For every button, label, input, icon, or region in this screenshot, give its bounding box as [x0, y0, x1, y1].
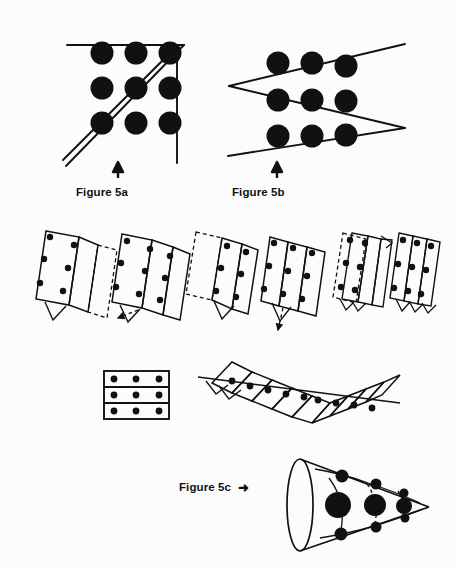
caption-figure-5b: Figure 5b: [232, 186, 285, 198]
caption-figure-5c-text: Figure 5c: [179, 481, 231, 493]
fold-stage-2: [112, 234, 190, 322]
fig5a-up-arrow-icon: [113, 162, 123, 178]
fig5b-dot-r2c2: [301, 89, 324, 112]
fig5b-dot-r3c1: [267, 125, 290, 148]
arrow-right-icon: ➜: [238, 481, 249, 494]
fold-stage-5: [333, 233, 392, 311]
fig5a-dot-r2c3: [159, 77, 182, 100]
fig5b-up-arrow-icon: [272, 162, 282, 178]
fold-stage-4: [261, 237, 325, 330]
caption-figure-5a-text: Figure 5a: [76, 186, 128, 198]
fold-sequence-diagram: [36, 231, 440, 330]
fig5a-line-edge: [66, 45, 67, 166]
fig5a-dot-r2c1: [91, 77, 114, 100]
fig5a-dot-r1c3: [159, 42, 182, 65]
fig5a-dot-r3c3: [159, 112, 182, 135]
fig5b-dot-r2c1: [267, 89, 290, 112]
fig5a-dot-r2c2: [125, 77, 148, 100]
fig5a-dot-r1c2: [125, 42, 148, 65]
flat-sheet-diagram: [104, 371, 169, 419]
fig5b-dot-r3c2: [301, 125, 324, 148]
fig5b-dot-r3c3: [335, 124, 358, 147]
fig5b-dots: [267, 52, 358, 148]
figure-5c-diagram: [287, 459, 429, 551]
fig5a-dot-r3c1: [91, 112, 114, 135]
fold-stage-6: [390, 233, 440, 313]
caption-figure-5c: Figure 5c➜: [179, 481, 249, 494]
fig5a-dots: [91, 42, 182, 135]
fig5b-dot-r1c1: [267, 52, 290, 75]
fold-stage-1: [36, 231, 117, 320]
fig5b-dot-r2c3: [335, 90, 358, 113]
figure-page: Figure 5a Figure 5b Figure 5c➜: [0, 0, 456, 567]
fig5b-dot-r1c3: [335, 55, 358, 78]
fig5a-line-4: [63, 45, 178, 160]
figure-5b-diagram: [228, 44, 405, 178]
fig5a-dot-r1c1: [91, 42, 114, 65]
accordion-diagram: [198, 362, 400, 423]
fig5b-dot-r1c2: [301, 52, 324, 75]
caption-figure-5b-text: Figure 5b: [232, 186, 285, 198]
figure-5a-diagram: [63, 42, 184, 179]
caption-figure-5a: Figure 5a: [76, 186, 128, 198]
fig5a-dot-r3c2: [125, 112, 148, 135]
fold-stage-3: [186, 232, 258, 319]
